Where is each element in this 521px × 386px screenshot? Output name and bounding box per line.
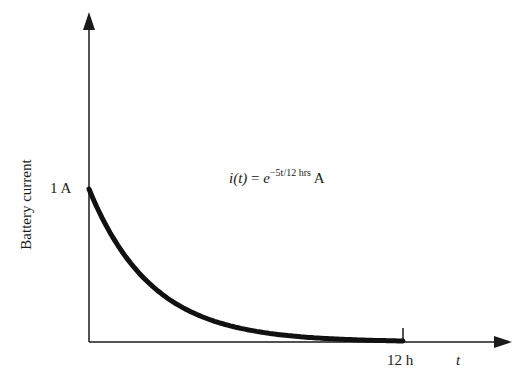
current-decay-curve [89,189,403,341]
formula-annotation: i(t) = e−5t/12 hrs A [229,170,325,187]
formula-unit: A [311,170,325,186]
chart-canvas [0,0,521,386]
y-tick-label-1a: 1 A [50,180,71,197]
x-tick-label-12h: 12 h [387,352,413,369]
x-axis-label: t [456,352,460,369]
formula-base: e [263,170,270,186]
y-axis-label: Battery current [18,145,35,265]
x-axis-arrow-icon [494,336,512,348]
formula-equals: = [247,170,263,186]
formula-exponent: −5t/12 hrs [270,167,311,178]
formula-lhs: i(t) [229,170,247,186]
y-axis-arrow-icon [83,12,95,30]
